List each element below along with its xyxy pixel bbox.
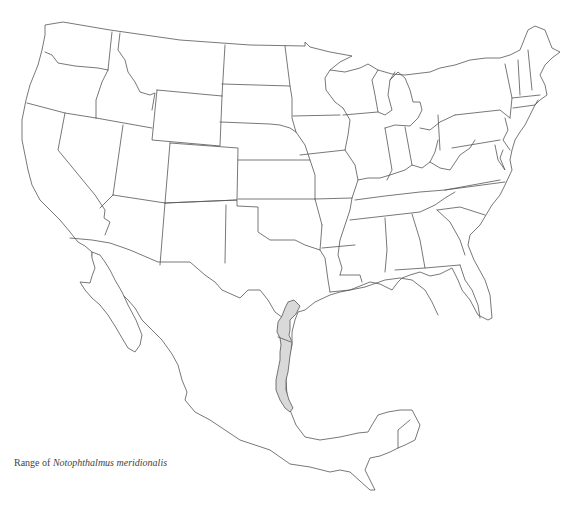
range-map: Range of Notophthalmus meridionalis (0, 0, 579, 506)
caption-prefix: Range of (14, 457, 53, 468)
map-canvas (0, 0, 579, 506)
caption-species-name: Notophthalmus meridionalis (53, 457, 167, 468)
map-caption: Range of Notophthalmus meridionalis (14, 457, 167, 468)
